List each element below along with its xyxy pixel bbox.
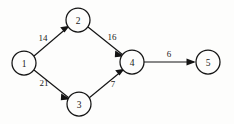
edge-label-4-5: 6 [167,49,172,59]
node-2[interactable]: 2 [66,8,90,32]
edge-3-4 [89,69,125,98]
node-5[interactable]: 5 [196,50,220,74]
edge-2-4-line [88,27,123,55]
node-5-label: 5 [206,58,211,68]
edge-label-1-2: 14 [39,33,49,43]
edge-4-5 [144,58,196,65]
node-3[interactable]: 3 [67,92,91,116]
edge-3-4-line [89,70,123,98]
node-1[interactable]: 1 [12,51,36,75]
node-3-label: 3 [77,100,82,110]
edge-2-4 [88,27,125,57]
graph-diagram: 14 21 16 7 6 1 2 3 4 [0,0,234,124]
edge-label-3-4: 7 [111,79,116,89]
graph-canvas-svg: 14 21 16 7 6 1 2 3 4 [0,0,234,124]
edge-label-1-3: 21 [40,78,49,88]
edge-4-5-arrowhead [187,58,196,65]
node-2-label: 2 [76,16,81,26]
node-4[interactable]: 4 [120,50,144,74]
edge-label-2-4: 16 [108,32,118,42]
node-1-label: 1 [22,59,27,69]
node-4-label: 4 [130,58,135,68]
